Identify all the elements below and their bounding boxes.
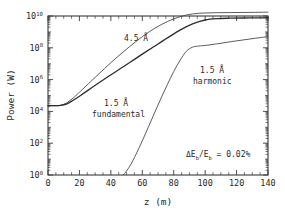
- energy-spread-slash: /E: [199, 150, 209, 159]
- x-tick-label-80: 80: [169, 178, 179, 188]
- curve-label-15a-harmonic-line2: harmonic: [193, 77, 232, 86]
- x-tick-label-120: 120: [229, 178, 244, 188]
- x-tick-label-40: 40: [106, 178, 116, 188]
- x-tick-label-140: 140: [260, 178, 275, 188]
- chart-figure: 020406080100120140 1001021041061081010 z…: [0, 0, 285, 215]
- x-axis-title: z (m): [144, 196, 173, 207]
- x-tick-label-20: 20: [74, 178, 84, 188]
- energy-spread-value: = 0.02%: [212, 150, 251, 159]
- curve-label-15a-fundamental-line2: fundamental: [92, 110, 145, 119]
- curve-label-15a-harmonic-line1: 1.5 Å: [200, 64, 224, 75]
- curve-label-15a-fundamental-line1: 1.5 Å: [104, 97, 128, 108]
- y-axis-title: Power (W): [5, 69, 16, 120]
- energy-spread-delta: ΔE: [186, 150, 196, 159]
- curve-label-45a: 4.5 Å: [124, 32, 148, 43]
- x-tick-label-60: 60: [137, 178, 147, 188]
- x-tick-label-100: 100: [197, 178, 212, 188]
- power-vs-z-log-plot: 020406080100120140 1001021041061081010 z…: [0, 0, 285, 215]
- x-tick-label-0: 0: [45, 178, 50, 188]
